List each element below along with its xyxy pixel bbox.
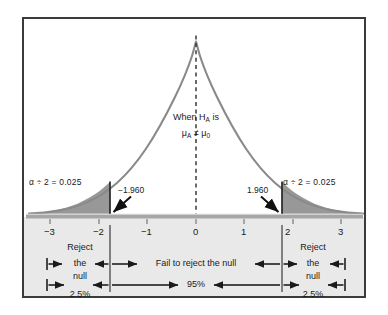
when-text: When H: [173, 112, 206, 122]
reject-left-line-3: null: [63, 272, 97, 281]
x-tick-label--1: −1: [141, 227, 152, 237]
alpha-label-right: α ÷ 2 = 0.025: [283, 178, 336, 187]
not-equal-icon: ≠: [194, 128, 199, 138]
x-tick-label-3: 3: [338, 227, 343, 237]
critical-value-label-left: −1.960: [118, 186, 144, 195]
mu-0-symbol: μ: [201, 128, 206, 138]
x-tick-label-2: 2: [285, 227, 290, 237]
reject-left-line-2: the: [63, 259, 97, 268]
normal-distribution-figure: α ÷ 2 = 0.025 α ÷ 2 = 0.025 −1.960 1.960…: [0, 0, 388, 315]
x-tick-label-1: 1: [241, 227, 246, 237]
reject-right-line-1: Reject: [290, 243, 336, 252]
mu-a-subscript: A: [187, 132, 191, 139]
reject-right-line-2: the: [296, 259, 330, 268]
percent-label-center: 95%: [180, 280, 212, 289]
when-tail: is: [210, 112, 219, 122]
reject-right-line-3: null: [296, 272, 330, 281]
percent-label-left: 2.5%: [60, 290, 100, 299]
reject-left-line-1: Reject: [57, 243, 103, 252]
hypothesis-line-2: μA ≠ μ0: [152, 129, 240, 138]
hypothesis-line-1: When HA is: [152, 113, 240, 122]
x-tick-label--3: −3: [44, 227, 55, 237]
x-tick-label-0: 0: [193, 227, 198, 237]
alpha-label-left: α ÷ 2 = 0.025: [29, 178, 82, 187]
when-subscript: A: [206, 116, 210, 123]
mu-0-subscript: 0: [207, 132, 211, 139]
critical-value-label-right: 1.960: [247, 186, 268, 195]
x-tick-label--2: −2: [93, 227, 104, 237]
percent-label-right: 2.5%: [293, 290, 333, 299]
fail-to-reject-label: Fail to reject the null: [139, 259, 253, 268]
